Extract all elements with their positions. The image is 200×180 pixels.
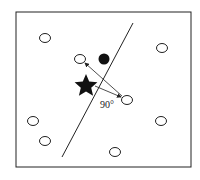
open-point [156, 117, 167, 126]
open-point [40, 34, 51, 43]
open-point [75, 55, 86, 64]
angle-label: 90° [100, 99, 114, 110]
open-point [122, 96, 133, 105]
diagram-canvas: 90° [0, 0, 200, 180]
open-point [110, 148, 121, 157]
open-point [28, 117, 39, 126]
filled-point [99, 54, 110, 65]
open-point [157, 44, 168, 53]
open-point [40, 137, 51, 146]
